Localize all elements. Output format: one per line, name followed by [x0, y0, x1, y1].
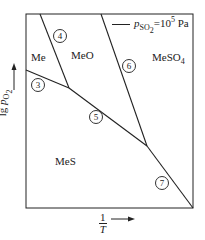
boundary-marker-5: 5 [89, 110, 103, 124]
boundary-marker-4: 4 [53, 29, 67, 43]
y-axis-arrow-icon [12, 63, 17, 70]
boundary-marker-6: 6 [122, 59, 136, 73]
boundary-line-7 [147, 146, 193, 208]
boundary-marker-3: 3 [31, 78, 45, 92]
region-label-mes: MeS [55, 156, 76, 167]
diagram-canvas [0, 0, 205, 240]
y-axis-label: lg pO2 [0, 90, 14, 117]
legend-line-icon [112, 24, 130, 25]
legend: pSO2=105 Pa [112, 15, 189, 34]
x-axis-label: 1T [99, 212, 107, 235]
x-axis-arrow-icon [128, 217, 135, 222]
boundary-marker-7: 7 [155, 176, 169, 190]
region-label-meso4: MeSO4 [152, 52, 185, 67]
boundary-line-5 [69, 88, 147, 146]
region-label-me: Me [31, 52, 46, 63]
region-label-meo: MeO [71, 50, 94, 61]
